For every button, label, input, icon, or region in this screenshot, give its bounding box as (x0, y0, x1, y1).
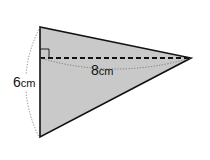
height-label: 6cm (12, 74, 36, 90)
triangle-shape (40, 27, 191, 137)
base-unit: cm (99, 65, 114, 77)
height-unit: cm (21, 77, 36, 89)
base-label: 8cm (91, 62, 113, 78)
height-value: 6 (13, 74, 21, 90)
base-value: 8 (91, 62, 99, 78)
